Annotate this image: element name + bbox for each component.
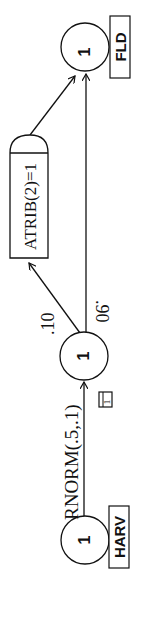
activity-number: 1	[102, 400, 112, 405]
assign-label: ATRIB(2)=1	[21, 163, 40, 250]
activity-duration-label: RNORM(.5,.1)	[61, 404, 83, 520]
node-fld-label: FLD	[112, 32, 129, 61]
probability-label-10: .10	[38, 313, 58, 336]
node-harv-label: HARV	[111, 516, 128, 558]
network-diagram: ATRIB(2)=1 1 FLD 1 1 HARV RNORM(.5,.1) 1…	[0, 0, 142, 624]
node-fld-value: 1	[76, 47, 93, 56]
node-mid-value: 1	[75, 351, 92, 360]
assign-node: ATRIB(2)=1	[10, 135, 48, 258]
activity-edge-assign-fld	[30, 76, 75, 135]
probability-label-90: .90	[92, 300, 112, 323]
activity-number-box: 1	[99, 392, 112, 407]
node-harv-value: 1	[76, 535, 93, 544]
node-fld: 1 FLD	[61, 16, 130, 78]
node-mid: 1	[60, 332, 108, 380]
